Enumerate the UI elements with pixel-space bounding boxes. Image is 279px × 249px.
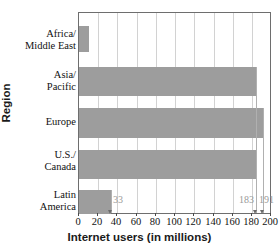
category-label-line1: U.S./: [14, 149, 76, 161]
x-tick-label-60: 60: [131, 216, 142, 228]
callout-arrow-191: [260, 210, 264, 214]
category-label-line1: Latin: [14, 189, 76, 201]
category-label-column: Africa/ Middle East Asia/ Pacific Europe…: [14, 12, 76, 214]
category-label-asia-pacific: Asia/ Pacific: [14, 69, 76, 92]
bar-chart: Region Africa/ Middle East Asia/ Pacific…: [0, 0, 279, 249]
bar-asia-pacific: [79, 67, 256, 96]
x-tick-label-120: 120: [185, 216, 201, 228]
x-axis-tick-labels: 0 20 40 60 80 100 120 140 160 180 200: [78, 216, 271, 229]
x-tick-label-20: 20: [92, 216, 103, 228]
bar-africa-middle-east: [79, 26, 89, 52]
callout-label-191: 191: [259, 194, 274, 205]
category-label-line2: Canada: [14, 161, 76, 173]
category-label-line1: Europe: [14, 116, 76, 128]
callout-label-33: 33: [113, 194, 123, 205]
category-label-africa-middle-east: Africa/ Middle East: [14, 28, 76, 51]
x-tick-label-0: 0: [75, 216, 80, 228]
category-label-line2: Pacific: [14, 81, 76, 93]
y-axis-title: Region: [0, 73, 12, 133]
x-tick-label-160: 160: [224, 216, 240, 228]
x-tick-label-40: 40: [111, 216, 122, 228]
chart-title-clipped: [78, 0, 272, 4]
bar-europe: [79, 108, 263, 138]
plot-area: [78, 12, 271, 214]
bar-us-canada: [79, 150, 256, 179]
x-tick-label-80: 80: [150, 216, 161, 228]
callout-arrow-33: [108, 210, 112, 214]
callout-arrow-183: [253, 210, 257, 214]
x-tick-label-140: 140: [205, 216, 221, 228]
bar-latin-america: [79, 190, 111, 214]
category-label-line2: Middle East: [14, 40, 76, 52]
category-label-line1: Asia/: [14, 69, 76, 81]
category-label-line1: Africa/: [14, 28, 76, 40]
x-axis-title: Internet users (in millions): [0, 231, 279, 243]
x-tick-label-200: 200: [262, 216, 278, 228]
x-tick-label-180: 180: [243, 216, 259, 228]
category-label-us-canada: U.S./ Canada: [14, 149, 76, 172]
category-label-line2: America: [14, 201, 76, 213]
callout-line-183: [256, 67, 257, 213]
category-label-europe: Europe: [14, 116, 76, 128]
category-label-latin-america: Latin America: [14, 189, 76, 212]
x-tick-label-100: 100: [166, 216, 182, 228]
callout-label-183: 183: [239, 194, 254, 205]
